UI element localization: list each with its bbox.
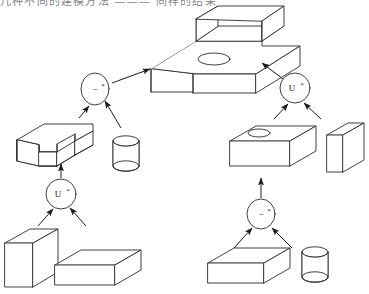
arrow-box-to-union-left [70,208,86,226]
arrow-plate-to-union-left [38,209,53,226]
operator-label-difference-right: − [258,209,263,219]
arrow-uchannel-to-diff-left [79,106,89,118]
csg-tree-figure: − * U * U * − * [0,0,369,294]
operator-star-union-left: * [66,187,70,195]
arrow-boxhole-to-union-right [274,104,288,119]
arrow-cylinder-to-diff-left [105,101,121,128]
solid-cylinder-left [113,136,139,171]
arrow-diff-left-to-result [112,69,150,83]
result-block-hole [198,53,230,65]
solid-u-channel [17,124,93,166]
solid-plate-left [5,229,58,287]
figure-canvas: 几种不同的建模方法 ——— 同样的结果 [0,0,369,294]
operator-label-union-left: U [55,189,62,199]
arrow-box-to-diff-right [234,228,252,248]
solid-plate-right [327,123,364,172]
solid-box-hole-right [230,126,316,166]
solid-cylinder-right [302,247,328,282]
box-hole-right-hole [248,129,270,137]
arrow-plate-to-union-right [304,103,321,119]
operator-label-difference-left: − [92,84,97,94]
operator-star-difference-right: * [267,207,271,215]
solid-box-bottom-right [208,248,290,283]
operator-star-difference-left: * [101,82,105,90]
solid-result-block [151,6,300,93]
operator-label-union-right: U [289,83,296,93]
solid-box-left [55,250,141,285]
operator-star-union-right: * [300,81,304,89]
arrow-cylinder-to-diff-right [272,228,292,248]
